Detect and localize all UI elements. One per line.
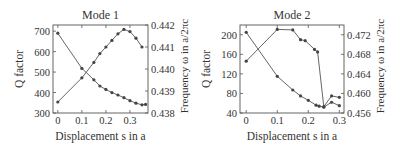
y-right-tick-label: 0.464	[347, 69, 371, 80]
y-tick-label: 120	[221, 69, 237, 80]
series-line-q-factor	[58, 33, 146, 105]
y-axis-label: Q factor	[200, 50, 212, 88]
data-point	[56, 100, 59, 103]
y-tick-label: 160	[221, 49, 237, 60]
data-point	[338, 104, 341, 107]
y-right-tick-label: 0.456	[347, 108, 371, 119]
x-tick-label: 0.1	[75, 115, 88, 126]
x-tick-label: 0	[244, 115, 249, 126]
y-right-tick-label: 0.442	[151, 20, 175, 31]
chart-title: Mode 1	[82, 8, 119, 22]
data-point	[128, 30, 131, 33]
series-line-frequency	[58, 29, 142, 102]
data-point	[307, 99, 310, 102]
data-point	[122, 96, 125, 99]
data-point	[80, 67, 83, 70]
data-point	[316, 50, 319, 53]
chart-panel-1: Mode 100.10.20.33004005006007000.4380.43…	[13, 8, 190, 143]
y-right-tick-label: 0.472	[347, 30, 371, 41]
data-point	[116, 32, 119, 35]
data-point	[299, 94, 302, 97]
data-point	[318, 105, 321, 108]
data-point	[134, 37, 137, 40]
x-axis-label: Displacement s in a	[55, 130, 145, 143]
data-point	[314, 104, 317, 107]
data-point	[104, 45, 107, 48]
x-axis-label: Displacement s in a	[247, 130, 337, 143]
data-point	[98, 52, 101, 55]
x-tick-label: 0.1	[271, 115, 284, 126]
plot-frame	[53, 25, 148, 113]
x-tick-label: 0	[55, 115, 60, 126]
chart-title: Mode 2	[274, 8, 311, 22]
y-right-tick-label: 0.460	[347, 88, 371, 99]
data-point	[110, 91, 113, 94]
data-point	[245, 31, 248, 34]
data-point	[330, 101, 333, 104]
y-tick-label: 500	[34, 67, 50, 78]
data-point	[56, 32, 59, 35]
data-point	[144, 103, 147, 106]
y-tick-label: 400	[34, 88, 50, 99]
y-tick-label: 700	[34, 26, 50, 37]
y-right-tick-label: 0.468	[347, 49, 371, 60]
data-point	[313, 48, 316, 51]
data-point	[134, 102, 137, 105]
data-point	[140, 45, 143, 48]
data-point	[128, 99, 131, 102]
data-point	[98, 84, 101, 87]
data-point	[92, 61, 95, 64]
data-point	[122, 28, 125, 31]
x-tick-label: 0.3	[123, 115, 136, 126]
y-tick-label: 600	[34, 47, 50, 58]
data-point	[104, 88, 107, 91]
figure: Mode 100.10.20.33004005006007000.4380.43…	[0, 0, 404, 148]
y-right-tick-label: 0.440	[151, 64, 175, 75]
data-point	[299, 38, 302, 41]
y-tick-label: 300	[34, 108, 50, 119]
data-point	[245, 60, 248, 63]
chart-panel-2: Mode 200.10.20.340801201602000.4560.4600…	[200, 8, 386, 143]
y-tick-label: 200	[221, 30, 237, 41]
data-point	[276, 28, 279, 31]
series-line-q-factor	[246, 32, 339, 107]
data-point	[291, 28, 294, 31]
x-tick-label: 0.2	[99, 115, 112, 126]
series-line-frequency	[246, 29, 339, 106]
data-point	[276, 75, 279, 78]
x-tick-label: 0.2	[302, 115, 315, 126]
data-point	[116, 93, 119, 96]
data-point	[92, 78, 95, 81]
data-point	[291, 88, 294, 91]
data-point	[140, 103, 143, 106]
y-right-tick-label: 0.438	[151, 108, 175, 119]
data-point	[304, 39, 307, 42]
y-tick-label: 80	[227, 88, 238, 99]
y-right-tick-label: 0.439	[151, 86, 175, 97]
y-tick-label: 40	[227, 108, 238, 119]
y-right-tick-label: 0.441	[151, 42, 175, 53]
data-point	[338, 96, 341, 99]
data-point	[330, 94, 333, 97]
data-point	[80, 76, 83, 79]
y-right-axis-label: Frequency ω in a/2πc	[374, 19, 386, 113]
data-point	[110, 39, 113, 42]
x-tick-label: 0.3	[333, 115, 346, 126]
data-point	[322, 105, 325, 108]
y-axis-label: Q factor	[13, 50, 25, 88]
y-right-axis-label: Frequency ω in a/2πc	[178, 19, 190, 113]
